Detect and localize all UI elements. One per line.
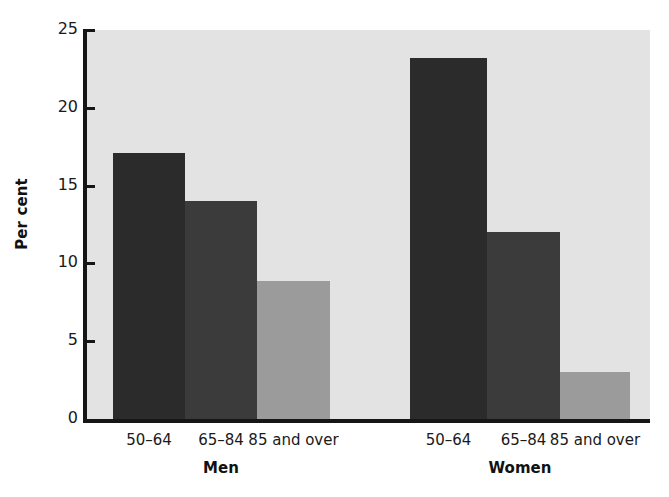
- y-tick-mark: [86, 107, 95, 110]
- y-axis-title: Per cent: [13, 169, 31, 259]
- x-axis-category-label: 85 and over: [548, 431, 642, 449]
- y-tick-label-wrap: 25: [38, 21, 78, 37]
- x-axis-category-label: 85 and over: [245, 431, 342, 449]
- y-tick-label-wrap: 15: [38, 177, 78, 193]
- y-tick-mark: [86, 340, 95, 343]
- x-axis-group-label: Women: [450, 459, 590, 477]
- y-tick-label: 0: [44, 410, 78, 426]
- y-tick-label-wrap: 10: [38, 254, 78, 270]
- y-tick-label: 10: [44, 254, 78, 270]
- bar-chart: Per cent 2520151050 50–6465–8485 and ove…: [0, 0, 669, 497]
- x-axis-line: [83, 419, 650, 423]
- y-tick-label: 5: [44, 332, 78, 348]
- y-tick-label-wrap: 20: [38, 99, 78, 115]
- y-tick-mark: [86, 262, 95, 265]
- bar: [113, 153, 185, 419]
- y-tick-label-wrap: 0: [38, 410, 78, 426]
- y-tick-label-wrap: 5: [38, 332, 78, 348]
- y-tick-label: 15: [44, 177, 78, 193]
- y-tick-mark: [86, 185, 95, 188]
- y-tick-mark: [86, 29, 95, 32]
- bar: [560, 372, 630, 419]
- bar: [410, 58, 487, 419]
- y-axis-line: [83, 29, 87, 420]
- bar: [185, 201, 257, 419]
- y-tick-label: 25: [44, 21, 78, 37]
- x-axis-group-label: Men: [151, 459, 291, 477]
- bar: [487, 232, 560, 419]
- bar: [257, 281, 330, 419]
- y-tick-label: 20: [44, 99, 78, 115]
